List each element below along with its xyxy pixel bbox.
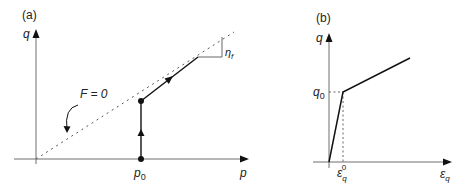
panel-a-x-axis-arrow-icon: [240, 156, 249, 163]
slope-label: ηf: [225, 46, 234, 61]
panel-b-x-axis-label: εq: [440, 167, 450, 183]
panel-b-label: (b): [316, 11, 331, 25]
yield-line-dotted: [36, 32, 234, 159]
slope-triangle: [198, 37, 222, 57]
stress-path-up-arrow-icon: [138, 129, 145, 136]
yield-surface-label: F = 0: [80, 87, 108, 101]
panel-a-y-axis-arrow-icon: [33, 29, 40, 38]
panel-b-y-axis-arrow-icon: [326, 33, 333, 42]
panel-a-x-axis-label: p: [239, 166, 247, 180]
eq0-tick-label: εq0: [337, 163, 347, 183]
stress-path-plastic-arrow-icon: [165, 76, 174, 84]
yield-point-marker: [138, 98, 144, 104]
stress-strain-curve: [329, 58, 410, 162]
p0-tick-label: p0: [133, 166, 146, 182]
panel-a-y-axis-label: q: [23, 27, 30, 41]
initial-point-marker: [138, 156, 144, 162]
panel-b-x-axis-arrow-icon: [443, 159, 452, 166]
yield-pointer-curve: [66, 105, 78, 130]
panel-b: (b) q q0 εq0 εq: [313, 11, 452, 183]
yield-pointer-arrow-icon: [64, 126, 71, 133]
panel-b-y-axis-label: q: [316, 31, 323, 45]
q0-tick-label: q0: [313, 85, 325, 101]
panel-a: (a) q p ηf F = 0 p0: [14, 8, 249, 182]
panel-a-label: (a): [22, 8, 37, 22]
figure: (a) q p ηf F = 0 p0 (b) q: [0, 0, 467, 188]
